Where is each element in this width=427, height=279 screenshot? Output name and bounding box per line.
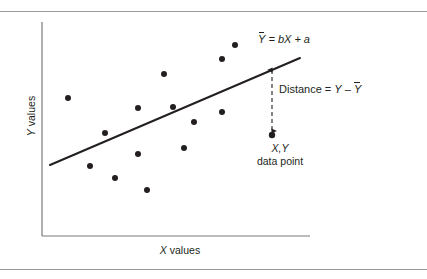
equation-body: = bX + a: [265, 33, 310, 45]
scatter-point: [269, 132, 275, 138]
x-axis-label-text: values: [167, 244, 200, 256]
overbar-mark: [354, 82, 359, 83]
y-axis-label-text: values: [25, 96, 37, 129]
scatter-point-group: [65, 42, 275, 193]
scatter-point: [144, 187, 150, 193]
overbar-mark: [259, 32, 264, 33]
regression-equation-label: Y = bX + a: [258, 33, 310, 45]
scatter-point: [181, 145, 187, 151]
scatter-point: [135, 105, 141, 111]
y-axis-label: Y values: [25, 76, 37, 156]
scatter-point: [161, 71, 167, 77]
scatter-point: [112, 175, 118, 181]
scatter-point: [170, 104, 176, 110]
distance-y-hat-symbol: Y: [354, 83, 361, 95]
x-axis-label: X values: [120, 244, 240, 256]
scatter-point: [219, 109, 225, 115]
y-axis-label-symbol: Y: [25, 129, 37, 136]
data-point-coords: X,Y: [272, 142, 289, 154]
scatter-point: [135, 151, 141, 157]
distance-y-hat-letter: Y: [354, 83, 361, 95]
scatter-point: [191, 119, 197, 125]
scatter-point: [219, 56, 225, 62]
scatter-point: [87, 163, 93, 169]
data-point-caption: data point: [257, 155, 303, 167]
distance-minus: –: [342, 83, 354, 95]
distance-prefix: Distance =: [279, 83, 334, 95]
y-hat-symbol: Y: [258, 33, 265, 45]
distance-y-symbol: Y: [334, 83, 341, 95]
scatter-point: [65, 95, 71, 101]
distance-label: Distance = Y – Y: [279, 83, 361, 95]
axis-lines: [42, 22, 310, 236]
data-point-label: X,Ydata point: [232, 142, 328, 168]
scatter-point: [102, 130, 108, 136]
y-hat-letter: Y: [258, 33, 265, 45]
x-axis-label-symbol: X: [160, 244, 167, 256]
regression-diagram: Y values X values Y = bX + a Distance = …: [0, 0, 427, 279]
scatter-point: [232, 42, 238, 48]
plot-canvas: [0, 0, 427, 279]
